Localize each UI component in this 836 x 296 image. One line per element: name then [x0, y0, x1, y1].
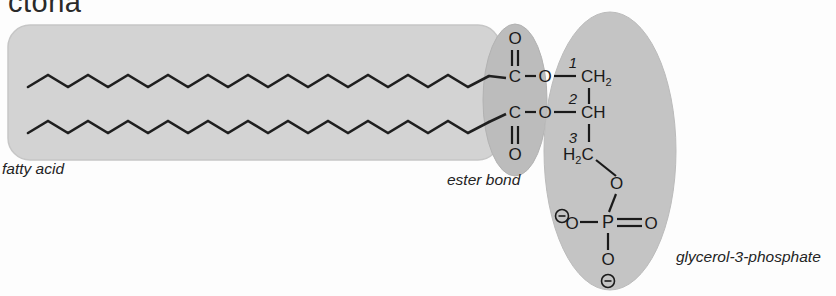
glycerol-c2-label: CH: [581, 103, 606, 122]
lower-carbonyl-oxygen-label: O: [508, 145, 521, 164]
upper-carbonyl-carbon-label: C: [509, 67, 521, 86]
fatty-acid-box: [8, 25, 500, 160]
glycerol-c3-number: 3: [569, 129, 578, 146]
upper-ester-oxygen-label: O: [538, 67, 551, 86]
upper-carbonyl-oxygen-label: O: [508, 29, 521, 48]
phosphorus-label: P: [602, 212, 614, 232]
phospho-right-oxygen-label: O: [644, 214, 657, 233]
diagram-canvas: ctona O C O C O O: [0, 0, 836, 296]
phospho-left-oxygen-label: O: [565, 214, 578, 233]
ester-bond-label: ester bond: [447, 171, 520, 189]
lower-ester-oxygen-label: O: [538, 103, 551, 122]
glycerol-c2-number: 2: [568, 90, 578, 107]
fatty-acid-label: fatty acid: [2, 160, 64, 178]
phospho-link-oxygen-label: O: [610, 174, 623, 193]
phospho-bottom-oxygen-label: O: [601, 250, 614, 269]
lower-carbonyl-carbon-label: C: [509, 103, 521, 122]
glycerol-c1-number: 1: [569, 54, 577, 71]
glycerol-3-phosphate-label: glycerol-3-phosphate: [676, 248, 821, 266]
